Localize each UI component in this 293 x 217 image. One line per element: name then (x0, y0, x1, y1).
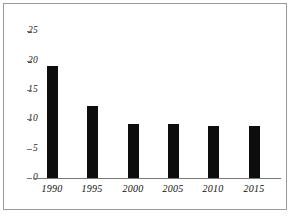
y-tick-dash-10 (27, 119, 32, 120)
bar-2015 (249, 126, 260, 178)
x-tick-label-2010: 2010 (190, 183, 236, 194)
y-tick-dash-25 (27, 31, 32, 32)
y-tick-dash-5 (27, 149, 32, 150)
bar-1995 (87, 106, 98, 178)
bars-layer (33, 18, 281, 178)
y-tick-dash-0 (27, 178, 32, 179)
bar-2000 (128, 124, 139, 178)
y-tick-dash-20 (27, 61, 32, 62)
x-axis-baseline (33, 178, 281, 179)
bar-chart-figure: 25 20 15 10 5 0 1990 1995 2000 2005 2010… (0, 0, 293, 217)
bar-2010 (208, 126, 219, 178)
x-tick-label-1995: 1995 (69, 183, 115, 194)
bar-2005 (168, 124, 179, 178)
bar-1990 (47, 66, 58, 178)
y-tick-dash-15 (27, 90, 32, 91)
x-tick-label-2015: 2015 (231, 183, 277, 194)
